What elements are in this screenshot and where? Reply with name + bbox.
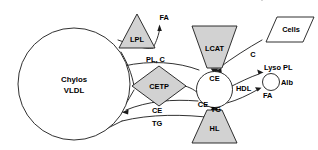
label-ce-cetp-out: CE: [152, 106, 162, 115]
label-ce-hdl-inner: CE: [198, 100, 208, 109]
cells-label: Cells: [282, 25, 300, 34]
label-tg-cetp-out: TG: [152, 119, 163, 128]
node-cells: Cells: [266, 17, 314, 42]
node-chylos-vldl: Chylos VLDL: [18, 28, 130, 140]
node-alb: [263, 74, 280, 91]
chylos-vldl-circle: [18, 28, 130, 140]
hl-label: HL: [210, 124, 220, 133]
chylos-vldl-label-line2: VLDL: [64, 86, 85, 95]
alb-circle: [263, 74, 280, 91]
path-tg-to-vldl: [122, 115, 214, 121]
label-fa-lpl: FA: [160, 13, 170, 22]
arrowhead-fa-lpl: [157, 25, 162, 32]
lipoprotein-pathway-diagram: Chylos VLDL LPL CETP LCAT HL Cells FA PL…: [0, 0, 318, 150]
node-hl: HL: [192, 110, 237, 143]
label-alb: Alb: [281, 78, 293, 87]
node-lcat: LCAT: [192, 26, 237, 68]
flow-paths-group: [104, 0, 264, 130]
label-c-cells: C: [250, 50, 256, 59]
node-lpl: LPL: [119, 14, 155, 48]
lpl-label: LPL: [130, 35, 144, 44]
label-lyso-pl: Lyso PL: [264, 63, 293, 72]
chylos-vldl-label-line1: Chylos: [61, 75, 88, 84]
label-tg-hdl: TG: [211, 105, 222, 114]
label-fa-alb: FA: [263, 91, 273, 100]
cetp-label: CETP: [149, 82, 169, 91]
pathway-canvas: Chylos VLDL LPL CETP LCAT HL Cells FA PL…: [0, 0, 318, 150]
lcat-label: LCAT: [205, 44, 225, 53]
label-pl-c: PL, C: [146, 55, 166, 64]
label-hdl: HDL: [236, 84, 252, 93]
label-ce-hdl-top: CE: [209, 74, 219, 83]
arrowhead-lysopl: [257, 70, 263, 75]
